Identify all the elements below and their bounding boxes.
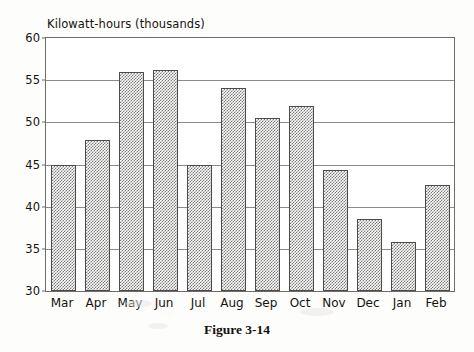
y-tick-label-55: 55: [25, 73, 40, 87]
y-tick-label-30: 30: [25, 284, 40, 298]
y-tick-label-40: 40: [25, 200, 40, 214]
bar-oct: [289, 106, 314, 291]
x-tick-label-jul: Jul: [191, 296, 205, 310]
x-tick-label-jan: Jan: [393, 296, 412, 310]
bar-slot: [425, 38, 450, 291]
x-tick-label-aug: Aug: [220, 296, 243, 310]
bar-slot: [289, 38, 314, 291]
plot-area: 30354045505560: [45, 37, 455, 292]
bar-sep: [255, 118, 280, 291]
x-tick-label-oct: Oct: [290, 296, 311, 310]
bar-slot: [51, 38, 76, 291]
bar-may: [119, 72, 144, 291]
bar-dec: [357, 219, 382, 291]
bar-aug: [221, 88, 246, 291]
y-tick-label-50: 50: [25, 115, 40, 129]
x-tick-label-jun: Jun: [155, 296, 174, 310]
x-tick-label-sep: Sep: [255, 296, 278, 310]
bar-slot: [255, 38, 280, 291]
bar-feb: [425, 185, 450, 291]
y-tick-label-60: 60: [25, 31, 40, 45]
bar-slot: [153, 38, 178, 291]
y-tick-label-45: 45: [25, 158, 40, 172]
bar-jun: [153, 70, 178, 291]
bar-slot: [119, 38, 144, 291]
figure-caption: Figure 3-14: [0, 322, 474, 338]
x-tick-label-may: May: [118, 296, 143, 310]
bar-slot: [85, 38, 110, 291]
bar-jan: [391, 242, 416, 291]
bar-slot: [187, 38, 212, 291]
figure-3-14: Kilowatt-hours (thousands) 3035404550556…: [0, 0, 474, 352]
chart-title: Kilowatt-hours (thousands): [47, 17, 205, 31]
bar-slot: [357, 38, 382, 291]
bar-slot: [323, 38, 348, 291]
x-tick-label-apr: Apr: [86, 296, 107, 310]
x-tick-label-feb: Feb: [425, 296, 446, 310]
bar-mar: [51, 165, 76, 292]
x-tick-label-mar: Mar: [51, 296, 74, 310]
bar-jul: [187, 165, 212, 292]
x-tick-label-nov: Nov: [322, 296, 345, 310]
bar-nov: [323, 170, 348, 291]
bar-apr: [85, 140, 110, 291]
bar-slot: [391, 38, 416, 291]
bar-series: [46, 38, 454, 291]
x-tick-label-dec: Dec: [356, 296, 379, 310]
x-axis-tick-labels: MarAprMayJunJulAugSepOctNovDecJanFeb: [45, 296, 455, 314]
bar-slot: [221, 38, 246, 291]
y-tick-label-35: 35: [25, 242, 40, 256]
